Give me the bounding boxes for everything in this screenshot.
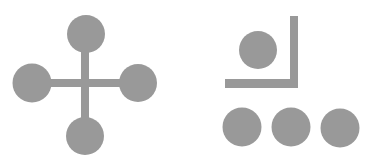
bracket-vertical-bar bbox=[290, 16, 298, 88]
bottom-circle bbox=[66, 117, 104, 155]
right-circle bbox=[119, 64, 157, 102]
cross-with-four-circles-group bbox=[13, 15, 158, 155]
row-circle-3 bbox=[321, 109, 360, 148]
row-circle-1 bbox=[223, 108, 262, 147]
left-circle bbox=[13, 64, 52, 103]
top-circle bbox=[67, 15, 105, 53]
diagram-canvas bbox=[0, 0, 375, 164]
row-circle-2 bbox=[272, 108, 311, 147]
inner-circle bbox=[239, 31, 277, 69]
bracket-horizontal-bar bbox=[225, 79, 298, 88]
shapes-figure bbox=[0, 0, 375, 164]
bracket-with-circles-group bbox=[223, 16, 360, 148]
